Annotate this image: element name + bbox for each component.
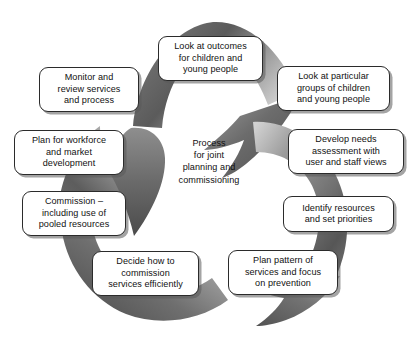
- node-look-at-outcomes[interactable]: Look at outcomes for children and young …: [158, 36, 263, 81]
- node-commission-pooled-resources[interactable]: Commission – including use of pooled res…: [22, 191, 126, 236]
- node-plan-for-workforce[interactable]: Plan for workforce and market developmen…: [14, 130, 124, 175]
- node-decide-how-to-commission[interactable]: Decide how to commission services effici…: [92, 251, 199, 296]
- diagram-canvas: Look at outcomes for children and young …: [0, 0, 418, 344]
- node-develop-needs-assessment[interactable]: Develop needs assessment with user and s…: [288, 129, 404, 174]
- node-look-at-particular-groups[interactable]: Look at particular groups of children an…: [277, 66, 390, 111]
- center-caption: Process for joint planning and commissio…: [157, 137, 261, 186]
- node-identify-resources[interactable]: Identify resources and set priorities: [283, 196, 394, 232]
- node-plan-pattern-of-services[interactable]: Plan pattern of services and focus on pr…: [228, 250, 338, 295]
- node-monitor-and-review[interactable]: Monitor and review services and process: [39, 67, 139, 112]
